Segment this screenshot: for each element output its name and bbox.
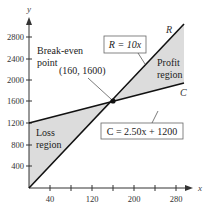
revenue-equation: R = 10x [108, 39, 142, 50]
x-axis-label: x [197, 183, 202, 193]
y-tick-label-2400: 2400 [7, 54, 24, 64]
x-axis-arrow-icon [185, 185, 193, 191]
profit-region-label-line1: Profit [157, 57, 180, 68]
x-tick-label-200: 200 [128, 194, 141, 204]
y-tick-label-2800: 2800 [7, 32, 24, 42]
break-even-label-line1: Break-even [37, 45, 83, 56]
break-even-marker [110, 98, 115, 103]
cost-equation: C = 2.50x + 1200 [107, 126, 177, 137]
y-tick-label-1600: 1600 [7, 96, 24, 106]
y-tick-label-800: 800 [11, 140, 24, 150]
break-even-pointer [88, 78, 111, 99]
revenue-equation-pointer [138, 53, 145, 64]
revenue-line-label: R [165, 24, 172, 35]
loss-region-label-line2: region [36, 139, 62, 150]
y-axis-label: y [26, 4, 31, 14]
x-tick-label-40: 40 [46, 194, 55, 204]
y-tick-label-400: 400 [11, 161, 24, 171]
cost-line-label: C [180, 87, 187, 98]
break-even-label-line2: point [37, 57, 58, 68]
x-tick-label-120: 120 [86, 194, 99, 204]
break-even-chart: 40 120 200 280 x 400 800 1200 1600 2000 … [0, 0, 211, 216]
loss-region-label-line1: Loss [36, 127, 55, 138]
x-tick-label-280: 280 [170, 194, 183, 204]
y-tick-label-1200: 1200 [7, 118, 24, 128]
profit-region-label-line2: region [157, 69, 183, 80]
cost-equation-pointer [152, 111, 158, 123]
cost-line [29, 83, 184, 123]
y-tick-label-2000: 2000 [7, 75, 24, 85]
y-axis-arrow-icon [26, 17, 32, 25]
break-even-coords: (160, 1600) [59, 65, 106, 77]
